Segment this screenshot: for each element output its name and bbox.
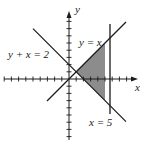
coordinate-plane	[0, 0, 147, 146]
label-y-plus-x-equals-2: y + x = 2	[8, 49, 49, 60]
label-y-equals-x: y = x	[79, 37, 102, 48]
x-axis-label: x	[135, 82, 140, 93]
label-x-equals-5: x = 5	[89, 117, 112, 128]
graph-figure: y x y = x y + x = 2 x = 5	[0, 0, 147, 146]
y-axis-arrow-icon	[67, 11, 72, 18]
line-y-equals-x	[47, 22, 126, 101]
y-axis-label: y	[75, 4, 80, 15]
shaded-region	[76, 43, 105, 101]
